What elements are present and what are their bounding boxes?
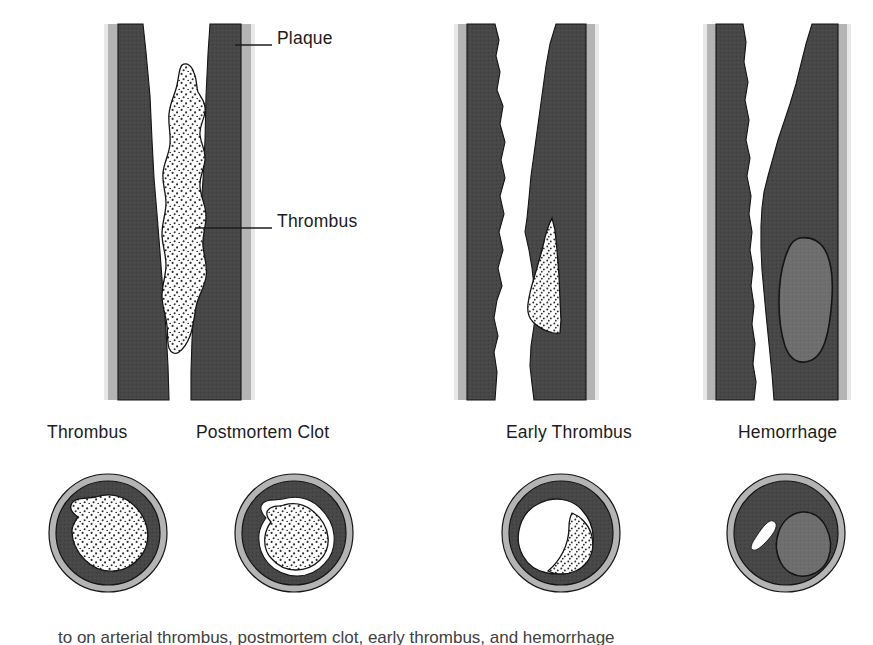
panel-label-postmortem-clot: Postmortem Clot: [196, 424, 329, 442]
callout-label-thrombus: Thrombus: [277, 213, 357, 231]
longitudinal-view-hemorrhage: [703, 24, 851, 400]
illustration-svg: [0, 0, 873, 645]
cross-section-thrombus: [49, 474, 167, 592]
figure-root: Plaque Thrombus Thrombus Postmortem Clot…: [0, 0, 873, 645]
figure-caption-text: to on arterial thrombus, postmortem clot…: [58, 629, 615, 645]
cross-section-early-thrombus: [502, 474, 620, 592]
callout-label-plaque: Plaque: [277, 30, 333, 48]
panel-label-hemorrhage: Hemorrhage: [738, 424, 837, 442]
panel-label-thrombus: Thrombus: [47, 424, 127, 442]
panel-label-early-thrombus: Early Thrombus: [506, 424, 632, 442]
cross-section-hemorrhage: [727, 474, 845, 592]
longitudinal-view-early-thrombus: [454, 24, 599, 400]
cross-section-postmortem-clot: [235, 474, 353, 592]
figure-caption-clipped: to on arterial thrombus, postmortem clot…: [0, 629, 873, 645]
longitudinal-view-thrombus: [104, 24, 255, 400]
